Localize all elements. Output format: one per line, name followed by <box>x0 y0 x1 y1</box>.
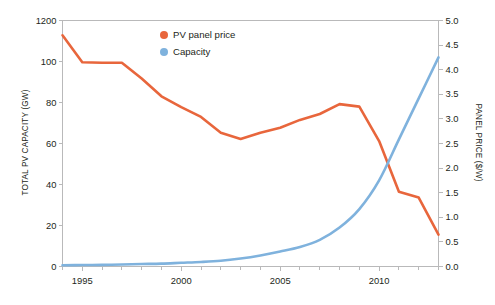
x-axis-tick-label: 1995 <box>62 275 102 286</box>
y-axis-left-tick-label: 0 <box>23 261 57 272</box>
y-axis-left-tick-label: 20 <box>23 220 57 231</box>
plot-area <box>0 0 495 305</box>
y-axis-right-tick-label: 0.0 <box>446 261 480 272</box>
y-axis-left-tick-label: 1200 <box>23 15 57 26</box>
y-axis-right-tick-label: 1.5 <box>446 187 480 198</box>
y-axis-right-tick-label: 4.0 <box>446 64 480 75</box>
y-axis-right-tick-label: 3.0 <box>446 113 480 124</box>
y-axis-left-tick-label: 40 <box>23 179 57 190</box>
y-axis-left-tick-label: 80 <box>23 97 57 108</box>
y-axis-right-tick-label: 5.0 <box>446 15 480 26</box>
y-axis-left-tick-label: 60 <box>23 138 57 149</box>
y-axis-left-tick-label: 100 <box>23 56 57 67</box>
x-axis-tick-label: 2005 <box>260 275 300 286</box>
series-line-capacity <box>63 57 439 265</box>
y-axis-right-tick-label: 4.5 <box>446 39 480 50</box>
y-axis-right-tick-label: 0.5 <box>446 236 480 247</box>
y-axis-right-tick-label: 2.5 <box>446 138 480 149</box>
x-axis-tick-label: 2000 <box>161 275 201 286</box>
data-series-group <box>63 35 439 265</box>
axis-ticks <box>59 21 443 272</box>
y-axis-right-tick-label: 1.0 <box>446 211 480 222</box>
y-axis-right-tick-label: 2.0 <box>446 162 480 173</box>
chart-container: TOTAL PV CAPACITY (GW) PANEL PRICE ($/W)… <box>0 0 495 305</box>
axis-frame <box>63 21 439 267</box>
y-axis-right-tick-label: 3.5 <box>446 88 480 99</box>
series-line-pv-panel-price <box>63 35 439 234</box>
x-axis-tick-label: 2010 <box>359 275 399 286</box>
